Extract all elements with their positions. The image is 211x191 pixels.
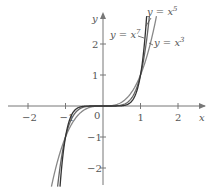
y-tick-label: −2 (87, 163, 102, 174)
y-tick-label: −1 (87, 132, 102, 143)
x-tick-label: 2 (175, 112, 181, 123)
label-x5: y = x5 (146, 5, 178, 26)
x-axis-label: x (199, 112, 205, 123)
label-x7: y = x7 (109, 28, 144, 40)
svg-text:y = x5: y = x5 (146, 5, 178, 17)
x-tick-label: 1 (138, 112, 144, 123)
power-functions-chart: −2−112−2−112 x y 0 y = x7 y = x5 y = x3 (0, 0, 211, 191)
y-tick-label: 1 (92, 70, 98, 81)
y-tick-label: 2 (92, 39, 98, 50)
curve-y-x-3 (51, 16, 156, 187)
origin-label: 0 (94, 110, 100, 121)
svg-text:y = x7: y = x7 (109, 28, 141, 40)
y-axis-label: y (91, 13, 98, 24)
label-x3: y = x3 (149, 36, 185, 48)
x-tick-label: −2 (22, 112, 37, 123)
curves (51, 16, 156, 187)
svg-text:y = x3: y = x3 (153, 36, 185, 48)
y-axis-arrow-icon (100, 12, 106, 19)
x-axis-arrow-icon (199, 103, 206, 109)
